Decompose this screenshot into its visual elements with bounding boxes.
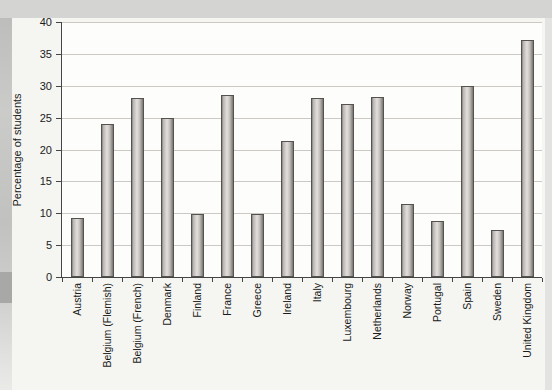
y-tick-label: 20	[20, 143, 52, 157]
x-axis-label: Netherlands	[371, 283, 383, 340]
bar	[161, 118, 174, 277]
y-tick-label: 25	[20, 111, 52, 125]
y-tick-mark	[56, 150, 61, 151]
y-tick-mark	[56, 245, 61, 246]
bar	[251, 214, 264, 277]
x-tick-mark	[242, 278, 243, 282]
x-tick-mark	[392, 278, 393, 282]
x-axis-label: Luxembourg	[341, 283, 353, 341]
gridline	[62, 22, 542, 23]
x-axis-label: Finland	[191, 283, 203, 317]
x-axis-label: United Kingdom	[521, 283, 533, 358]
gridline	[62, 54, 542, 55]
bar	[131, 98, 144, 277]
x-tick-mark	[482, 278, 483, 282]
y-tick-mark	[56, 22, 61, 23]
x-axis-label: Sweden	[491, 283, 503, 321]
y-tick-label: 10	[20, 206, 52, 220]
x-tick-mark	[302, 278, 303, 282]
bar	[431, 221, 444, 277]
x-axis-label: Belgium (French)	[131, 283, 143, 364]
x-tick-mark	[362, 278, 363, 282]
x-tick-mark	[122, 278, 123, 282]
bar	[371, 97, 384, 277]
y-tick-mark	[56, 118, 61, 119]
x-axis-label: Italy	[311, 283, 323, 302]
x-tick-mark	[332, 278, 333, 282]
bar	[221, 95, 234, 277]
x-tick-mark	[542, 278, 543, 282]
x-axis-label: France	[221, 283, 233, 316]
bar	[191, 214, 204, 277]
y-tick-mark	[56, 277, 61, 278]
bar	[341, 104, 354, 277]
y-tick-mark	[56, 181, 61, 182]
x-tick-mark	[92, 278, 93, 282]
y-tick-mark	[56, 54, 61, 55]
bar	[311, 98, 324, 277]
bar-chart: Cannabis use among students 15–16 Percen…	[0, 0, 552, 390]
x-tick-mark	[62, 278, 63, 282]
y-tick-label: 40	[20, 15, 52, 29]
x-tick-mark	[512, 278, 513, 282]
bar	[521, 40, 534, 277]
y-tick-mark	[56, 86, 61, 87]
x-axis-label: Austria	[71, 283, 83, 316]
x-tick-mark	[182, 278, 183, 282]
bar	[401, 204, 414, 277]
y-tick-label: 15	[20, 174, 52, 188]
x-axis-label: Denmark	[161, 283, 173, 326]
bar	[71, 218, 84, 277]
bar	[491, 230, 504, 277]
x-axis-label: Belgium (Flemish)	[101, 283, 113, 368]
x-tick-mark	[422, 278, 423, 282]
bar	[101, 124, 114, 277]
x-axis-label: Greece	[251, 283, 263, 317]
x-axis-label: Ireland	[281, 283, 293, 315]
y-tick-mark	[56, 213, 61, 214]
x-tick-mark	[452, 278, 453, 282]
y-tick-label: 35	[20, 47, 52, 61]
y-axis-line	[61, 22, 62, 278]
x-tick-mark	[272, 278, 273, 282]
page: { "page": { "background_color": "#e3e3e1…	[0, 0, 552, 390]
x-tick-mark	[152, 278, 153, 282]
x-tick-mark	[212, 278, 213, 282]
x-axis-label: Norway	[401, 283, 413, 319]
y-tick-label: 30	[20, 79, 52, 93]
bar	[461, 86, 474, 277]
y-tick-label: 0	[20, 270, 52, 284]
y-tick-label: 5	[20, 238, 52, 252]
x-axis-label: Portugal	[431, 283, 443, 322]
bar	[281, 141, 294, 277]
x-axis-label: Spain	[461, 283, 473, 310]
